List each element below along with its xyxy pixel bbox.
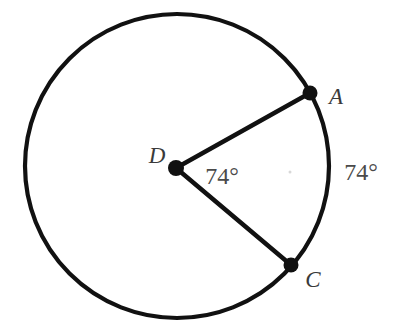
point-d-dot: [168, 160, 184, 176]
point-a-dot: [303, 86, 318, 101]
point-c-dot: [284, 258, 299, 273]
point-label-a: A: [329, 85, 343, 108]
geometry-canvas: [0, 0, 395, 335]
point-label-d: D: [149, 144, 166, 167]
central-angle-label: 74°: [205, 164, 239, 188]
scan-speck-artifact: [289, 171, 292, 174]
arc-measure-label: 74°: [344, 160, 378, 184]
radius-d-a-segment: [176, 93, 310, 168]
geometry-figure: A C D 74° 74°: [0, 0, 395, 335]
point-label-c: C: [305, 268, 320, 291]
